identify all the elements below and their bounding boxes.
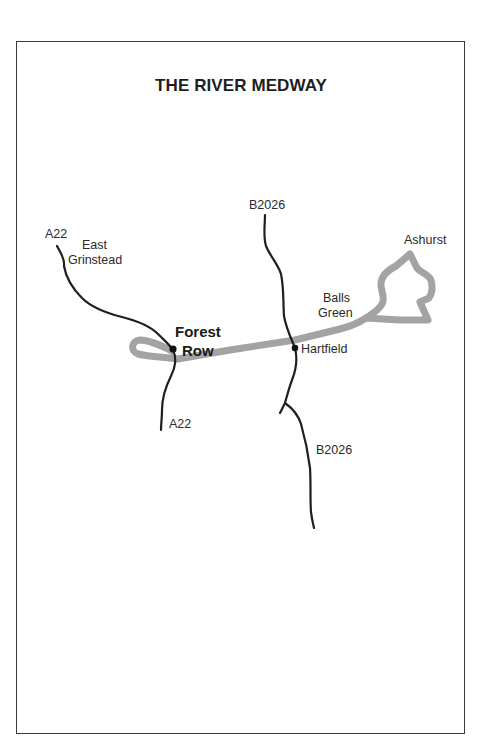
road-label-b2026-north: B2026 <box>249 198 285 213</box>
place-label-balls-green: Balls Green <box>318 291 353 321</box>
place-label-east-grinstead-line1: East <box>68 238 122 253</box>
place-label-balls-green-line2: Green <box>318 306 353 321</box>
place-label-east-grinstead: East Grinstead <box>68 238 122 268</box>
place-label-forest-row-line1: Forest <box>175 322 221 341</box>
road-label-a22-south: A22 <box>169 417 191 432</box>
place-label-forest-row-line2: Row <box>175 341 221 360</box>
road-b2026-south <box>285 348 314 528</box>
place-label-ashurst: Ashurst <box>404 233 446 248</box>
place-label-hartfield: Hartfield <box>301 342 348 357</box>
road-label-b2026-south: B2026 <box>316 443 352 458</box>
road-b2026-north <box>264 215 295 348</box>
road-label-a22-north: A22 <box>45 227 67 242</box>
place-label-east-grinstead-line2: Grinstead <box>68 253 122 268</box>
map-canvas <box>0 0 488 745</box>
hartfield-dot <box>292 345 299 352</box>
road-b2026-spur <box>280 403 285 413</box>
place-label-balls-green-line1: Balls <box>318 291 353 306</box>
place-label-forest-row: Forest Row <box>175 322 221 360</box>
river-ashurst-loop <box>366 254 432 320</box>
